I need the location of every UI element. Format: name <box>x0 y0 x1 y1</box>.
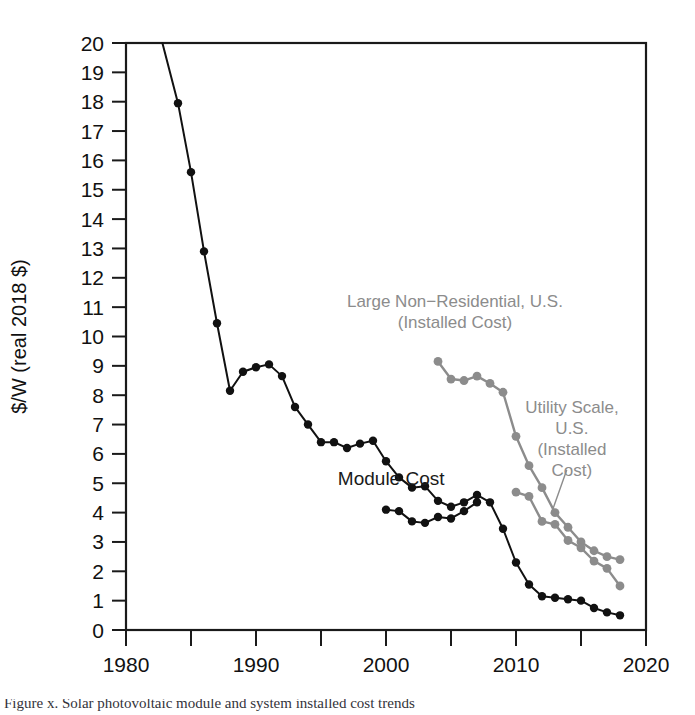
data-point <box>421 519 429 527</box>
data-point <box>564 536 573 545</box>
y-tick-label-14: 14 <box>81 208 105 231</box>
data-point <box>460 507 468 515</box>
data-point <box>473 491 481 499</box>
data-point <box>447 514 455 522</box>
data-point <box>252 363 260 371</box>
y-tick-label-0: 0 <box>92 619 104 642</box>
y-tick-label-8: 8 <box>92 384 104 407</box>
data-point <box>265 360 273 368</box>
data-point <box>538 483 547 492</box>
y-tick-label-17: 17 <box>81 120 104 143</box>
data-point <box>434 513 442 521</box>
data-point <box>577 543 586 552</box>
data-point <box>447 375 456 384</box>
data-point <box>603 608 611 616</box>
data-point <box>291 403 299 411</box>
data-point <box>564 523 573 532</box>
solar-cost-line-chart: 01234567891011121314151617181920 1980199… <box>0 0 695 715</box>
data-point <box>590 557 599 566</box>
data-point <box>512 432 521 441</box>
y-tick-label-2: 2 <box>92 560 104 583</box>
data-point <box>382 457 390 465</box>
y-tick-label-12: 12 <box>81 266 104 289</box>
large-non-residential-label: Large Non−Residential, U.S.(Installed Co… <box>347 292 563 332</box>
data-point <box>525 461 534 470</box>
data-point <box>174 99 182 107</box>
data-point <box>590 546 599 555</box>
y-tick-label-10: 10 <box>81 325 104 348</box>
data-point <box>538 517 547 526</box>
data-point <box>369 436 377 444</box>
data-point <box>278 372 286 380</box>
data-point <box>538 592 546 600</box>
data-point <box>200 247 208 255</box>
data-point <box>460 498 468 506</box>
y-tick-label-7: 7 <box>92 413 104 436</box>
data-series-group <box>162 43 624 620</box>
data-point <box>603 564 612 573</box>
data-point <box>616 555 625 564</box>
data-point <box>213 319 221 327</box>
data-point <box>590 604 598 612</box>
data-point <box>577 596 585 604</box>
data-point <box>525 492 534 501</box>
data-point <box>473 498 481 506</box>
data-point <box>551 520 560 529</box>
x-tick-label-2010: 2010 <box>493 653 540 676</box>
data-point <box>486 498 494 506</box>
series-line-0 <box>162 43 620 615</box>
data-point <box>512 558 520 566</box>
y-tick-label-18: 18 <box>81 90 104 113</box>
x-axis-ticks: 19801990200020102020 <box>103 630 670 676</box>
data-point <box>616 582 625 591</box>
data-point <box>382 505 390 513</box>
data-point <box>408 517 416 525</box>
data-point <box>512 488 521 497</box>
y-tick-label-11: 11 <box>82 296 104 319</box>
utility-scale-label: Utility Scale,U.S.(InstalledCost) <box>525 398 619 480</box>
x-tick-label-2020: 2020 <box>623 653 670 676</box>
y-tick-label-15: 15 <box>81 178 104 201</box>
data-point <box>317 438 325 446</box>
data-point <box>343 444 351 452</box>
data-point <box>447 503 455 511</box>
y-tick-label-1: 1 <box>92 589 104 612</box>
module-cost-label: Module Cost <box>338 468 445 489</box>
data-point <box>499 525 507 533</box>
data-point <box>551 594 559 602</box>
data-point <box>434 497 442 505</box>
data-point <box>356 439 364 447</box>
y-tick-label-13: 13 <box>81 237 104 260</box>
figure-container: 01234567891011121314151617181920 1980199… <box>0 0 695 715</box>
figure-caption: Figure x. Solar photovoltaic module and … <box>4 699 415 712</box>
y-tick-label-9: 9 <box>92 354 104 377</box>
data-point <box>473 372 482 381</box>
data-point <box>330 438 338 446</box>
data-point <box>499 388 508 397</box>
x-tick-label-1980: 1980 <box>103 653 150 676</box>
x-tick-label-2000: 2000 <box>363 653 410 676</box>
data-point <box>564 595 572 603</box>
data-point <box>226 387 234 395</box>
series-line-2 <box>438 361 620 559</box>
data-point <box>525 580 533 588</box>
y-tick-label-20: 20 <box>81 32 104 55</box>
y-tick-label-3: 3 <box>92 530 104 553</box>
y-tick-label-4: 4 <box>92 501 104 524</box>
figure-caption-strip: Figure x. Solar photovoltaic module and … <box>0 699 695 715</box>
data-point <box>395 507 403 515</box>
data-point <box>486 379 495 388</box>
y-tick-label-16: 16 <box>81 149 104 172</box>
y-axis-ticks: 01234567891011121314151617181920 <box>81 32 126 642</box>
annotations-group: Module CostLarge Non−Residential, U.S.(I… <box>338 292 619 514</box>
data-point <box>239 368 247 376</box>
data-point <box>460 376 469 385</box>
data-point <box>616 611 624 619</box>
y-tick-label-5: 5 <box>92 472 104 495</box>
data-point <box>434 357 443 366</box>
y-tick-label-19: 19 <box>81 61 104 84</box>
x-tick-label-1990: 1990 <box>233 653 280 676</box>
y-axis-title: $/W (real 2018 $) <box>8 259 30 414</box>
y-tick-label-6: 6 <box>92 442 104 465</box>
data-point <box>304 420 312 428</box>
